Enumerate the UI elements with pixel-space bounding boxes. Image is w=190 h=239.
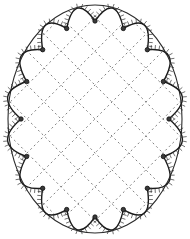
cusp-node xyxy=(161,79,165,83)
cusp-node xyxy=(24,154,28,158)
cusp-node xyxy=(64,207,68,211)
cusp-node xyxy=(93,215,97,219)
cusp-node xyxy=(40,48,44,52)
ornament-diagram xyxy=(0,0,190,239)
cusp-node xyxy=(145,48,149,52)
cusp-node xyxy=(167,117,171,121)
cusp-node xyxy=(121,26,125,30)
figure-root xyxy=(0,0,190,239)
cusp-node xyxy=(161,154,165,158)
figure-background xyxy=(0,0,190,239)
cusp-node xyxy=(19,117,23,121)
cusp-node xyxy=(93,19,97,23)
cusp-node xyxy=(145,186,149,190)
cusp-node xyxy=(24,79,28,83)
cusp-node xyxy=(121,207,125,211)
cusp-node xyxy=(40,186,44,190)
cusp-node xyxy=(64,26,68,30)
